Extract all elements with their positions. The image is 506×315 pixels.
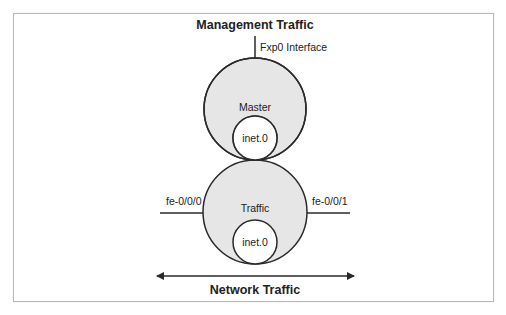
network-traffic-title: Network Traffic <box>210 283 300 297</box>
fe-0-0-0-label: fe-0/0/0 <box>166 195 202 207</box>
fe-0-0-1-label: fe-0/0/1 <box>312 195 348 207</box>
master-inet0-label-overlay: inet.0 <box>242 132 268 144</box>
traffic-instance-label: Traffic <box>241 202 270 214</box>
routing-instances-diagram: Management Traffic Fxp0 Interface Master… <box>0 0 506 315</box>
master-instance-label: Master <box>239 101 272 113</box>
traffic-inet0-label: inet.0 <box>242 236 268 248</box>
management-traffic-title: Management Traffic <box>196 18 313 32</box>
fxp0-interface-label: Fxp0 Interface <box>260 41 327 53</box>
